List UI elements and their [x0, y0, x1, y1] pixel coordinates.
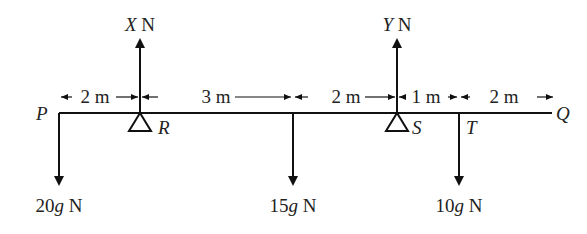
label-s: S	[412, 117, 422, 138]
dim-r-15g: 3 m	[201, 86, 230, 107]
label-p: P	[35, 103, 48, 124]
beam-diagram: 2 m 3 m 2 m 1 m 2 m P Q R S T X N Y N 20…	[0, 0, 587, 234]
reaction-x-label: X N	[124, 14, 155, 35]
dim-s-t: 1 m	[411, 86, 440, 107]
dim-p-r: 2 m	[80, 86, 109, 107]
load-10g-label: 10g N	[436, 195, 483, 216]
reaction-y-label: Y N	[382, 14, 411, 35]
support-r-triangle	[129, 113, 151, 131]
dim-t-q: 2 m	[489, 86, 518, 107]
label-q: Q	[556, 103, 570, 124]
load-15g-label: 15g N	[270, 195, 317, 216]
support-s-triangle	[386, 113, 408, 131]
load-20g-label: 20g N	[36, 195, 83, 216]
label-t: T	[466, 117, 478, 138]
label-r: R	[157, 117, 170, 138]
dim-15g-s: 2 m	[331, 86, 360, 107]
